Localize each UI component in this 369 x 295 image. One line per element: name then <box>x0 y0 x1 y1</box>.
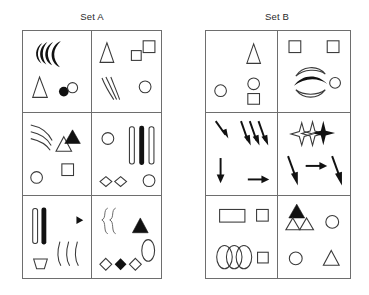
three-four-point-stars-last-filled-icon <box>291 121 335 145</box>
outline-square-small-icon <box>131 51 141 61</box>
outline-narrow-triangle-icon <box>247 44 261 63</box>
small-filled-triangle-icon <box>65 130 81 144</box>
set-a-cell-row3-col1[interactable] <box>23 196 92 278</box>
cell-shapes <box>278 113 350 194</box>
outline-circle-icon <box>289 252 302 265</box>
cell-shapes <box>23 113 91 194</box>
outline-rectangle-icon <box>220 209 245 222</box>
set-b-cell-row2-col1[interactable] <box>206 113 278 195</box>
set-a-cell-row2-col2[interactable] <box>92 113 161 195</box>
set-b-cell-row3-col2[interactable] <box>278 196 350 278</box>
outline-ellipse-icon <box>142 239 155 261</box>
set-a-cell-row1-col1[interactable] <box>23 31 92 113</box>
outline-circle-icon <box>215 85 227 97</box>
three-thin-arcs-icon <box>102 77 120 100</box>
outline-square-icon <box>248 94 260 105</box>
cell-shapes <box>92 113 161 194</box>
three-diagonal-arrows-icon <box>241 121 268 145</box>
diagonal-down-arrow-icon <box>332 156 342 185</box>
outline-square-icon <box>289 41 301 53</box>
set-a-panel: Set A <box>0 0 184 295</box>
outline-circle-icon <box>330 78 341 89</box>
set-a-cell-row2-col1[interactable] <box>23 113 92 195</box>
small-diagonal-arrow-icon <box>216 121 229 139</box>
cell-shapes <box>278 31 350 112</box>
outline-triangle-icon <box>286 218 300 230</box>
cell-shapes <box>92 31 161 112</box>
three-thin-vertical-arcs-icon <box>58 241 79 265</box>
cell-shapes <box>23 196 91 278</box>
down-arrow-icon <box>217 158 225 183</box>
filled-triangle-icon <box>289 204 305 218</box>
set-b-cell-row1-col1[interactable] <box>206 31 278 113</box>
right-arrow-icon <box>306 162 328 170</box>
outline-diamond-icon <box>100 177 112 187</box>
set-a-cell-row3-col2[interactable] <box>92 196 161 278</box>
outline-trapezoid-icon <box>34 259 48 269</box>
filled-diamond-icon <box>115 258 127 270</box>
two-brace-curves-icon <box>102 208 116 234</box>
cell-shapes <box>92 196 161 278</box>
set-a-cell-row1-col2[interactable] <box>92 31 161 113</box>
outline-square-icon <box>257 209 269 221</box>
three-thin-arcs-icon <box>31 125 52 150</box>
filled-triangle-icon <box>132 218 148 233</box>
outline-circle-icon <box>326 215 339 228</box>
three-thick-slanted-strokes-icon <box>216 41 235 66</box>
outline-narrow-triangle-icon <box>33 77 48 97</box>
right-arrow-icon <box>248 176 269 184</box>
three-stacked-arcs-middle-filled-icon <box>294 68 327 97</box>
three-nested-filled-crescents-icon <box>36 41 61 67</box>
outline-circle-icon <box>31 172 43 184</box>
set-b-cell-row2-col2[interactable] <box>278 113 350 195</box>
outline-diamond-icon <box>129 258 141 270</box>
outline-diamond-icon <box>115 177 127 187</box>
outline-square-icon <box>62 164 74 176</box>
outline-circle-icon <box>248 78 260 90</box>
outline-circle-icon <box>139 81 151 93</box>
cell-shapes <box>206 196 277 278</box>
outline-circle-icon <box>143 175 155 187</box>
small-outline-circle-icon <box>67 83 77 93</box>
outline-narrow-triangle-icon <box>100 43 114 63</box>
outline-triangle-icon <box>323 250 339 265</box>
three-overlapping-ellipses-icon <box>217 245 252 268</box>
three-vertical-bars-middle-filled-icon <box>129 126 153 165</box>
right-arrow-icon <box>58 216 83 224</box>
outline-square-icon <box>327 41 339 53</box>
set-a-label: Set A <box>0 11 184 23</box>
set-b-grid <box>205 30 351 279</box>
set-b-cell-row3-col1[interactable] <box>206 196 278 278</box>
cell-shapes <box>206 31 277 112</box>
cell-shapes <box>206 113 277 194</box>
diagonal-down-arrow-icon <box>288 156 298 185</box>
set-a-grid <box>22 30 162 279</box>
two-vertical-bars-right-filled-icon <box>33 207 47 244</box>
figure-root: Set A <box>0 0 369 295</box>
outline-circle-icon <box>102 133 114 145</box>
cell-shapes <box>23 31 91 112</box>
outline-square-icon <box>143 41 155 53</box>
outline-diamond-icon <box>100 258 112 270</box>
outline-triangle-icon <box>300 218 314 230</box>
outline-square-icon <box>258 252 269 263</box>
set-b-panel: Set B <box>185 0 369 295</box>
set-b-label: Set B <box>185 11 369 23</box>
set-b-cell-row1-col2[interactable] <box>278 31 350 113</box>
cell-shapes <box>278 196 350 278</box>
